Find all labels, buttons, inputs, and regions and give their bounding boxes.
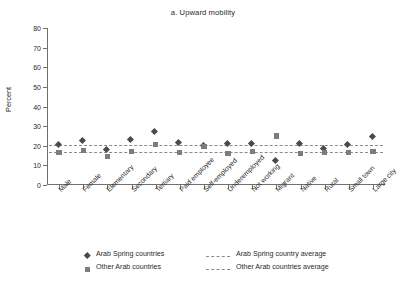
legend-row: Arab Spring countries Arab Spring countr… (84, 249, 364, 262)
legend-label-avg-2: Other Arab countries average (236, 263, 329, 271)
plot-area: 01020304050607080 (47, 28, 385, 185)
y-tick-mark (43, 48, 47, 49)
legend-label-series-2: Other Arab countries (96, 263, 161, 271)
y-tick-mark (43, 146, 47, 147)
dashed-line-icon (206, 256, 230, 257)
y-tick-mark (43, 107, 47, 108)
y-tick-label: 0 (37, 182, 41, 189)
legend-label-avg-1: Arab Spring country average (236, 250, 326, 258)
y-tick-label: 80 (33, 25, 41, 32)
y-axis-label: Percent (4, 76, 13, 124)
chart-title: a. Upward mobility (0, 8, 406, 17)
chart-figure: a. Upward mobility Percent 0102030405060… (0, 0, 406, 290)
average-line (49, 152, 383, 153)
chart-legend: Arab Spring countries Arab Spring countr… (84, 249, 364, 275)
y-tick-label: 40 (33, 103, 41, 110)
diamond-marker-icon (84, 253, 94, 259)
y-tick-label: 70 (33, 44, 41, 51)
y-tick-mark (43, 185, 47, 186)
x-axis-labels: MaleFemaleElementarySecondaryTertiaryPai… (47, 188, 385, 244)
square-marker-icon (84, 266, 94, 272)
y-tick-label: 20 (33, 142, 41, 149)
average-line (49, 145, 383, 146)
y-tick-mark (43, 67, 47, 68)
y-tick-mark (43, 165, 47, 166)
y-tick-label: 50 (33, 83, 41, 90)
y-axis-line (47, 28, 48, 185)
legend-label-series-1: Arab Spring countries (96, 250, 164, 258)
legend-row: Other Arab countries Other Arab countrie… (84, 262, 364, 275)
y-tick-mark (43, 126, 47, 127)
dashed-line-icon (206, 269, 230, 270)
y-tick-label: 60 (33, 64, 41, 71)
y-tick-mark (43, 87, 47, 88)
y-tick-label: 30 (33, 123, 41, 130)
y-tick-label: 10 (33, 162, 41, 169)
y-tick-mark (43, 28, 47, 29)
